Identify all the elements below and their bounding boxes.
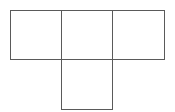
square-top-left [10,10,62,60]
square-top-middle [61,10,113,60]
square-bottom-middle [61,59,113,110]
square-top-right [112,10,165,60]
